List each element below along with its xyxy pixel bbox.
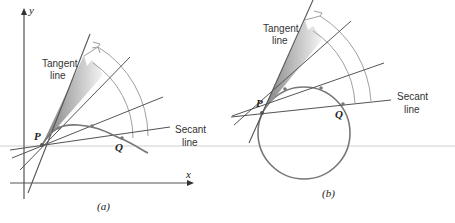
label-p: P <box>34 130 41 142</box>
tangent-secant-figure: y x Tangent line Secant line P Q (a) <box>0 0 455 223</box>
secant-label-line2: line <box>404 104 420 115</box>
x-axis-label: x <box>185 168 191 180</box>
point-mid-1 <box>57 126 61 130</box>
rotation-arc-outer <box>320 16 371 101</box>
tangent-label-line2: line <box>272 35 288 46</box>
tangent-label-line1: Tangent <box>42 58 78 69</box>
rotation-arc-outer <box>98 47 148 136</box>
tangent-label-line1: Tangent <box>263 23 299 34</box>
y-axis-arrow-icon <box>21 8 27 15</box>
secant-label-line1: Secant <box>175 124 206 135</box>
caption-b: (b) <box>322 187 335 200</box>
panel-b: Tangent line Secant line P Q (b) <box>231 0 428 200</box>
tangent-label-line2: line <box>50 70 66 81</box>
secant-label-line2: line <box>182 137 198 148</box>
secant-label-line1: Secant <box>397 91 428 102</box>
label-q: Q <box>115 141 123 153</box>
tangent-line <box>249 0 313 143</box>
y-axis-label: y <box>28 4 34 16</box>
point-p <box>40 143 44 147</box>
panel-a: y x Tangent line Secant line P Q (a) <box>10 4 206 213</box>
point-mid-1 <box>283 87 287 91</box>
label-p: P <box>256 97 263 109</box>
label-q: Q <box>335 108 343 120</box>
point-mid-2 <box>90 124 94 128</box>
caption-a: (a) <box>97 200 110 213</box>
x-axis-arrow-icon <box>187 180 194 186</box>
point-q <box>341 102 345 106</box>
approach-line-1 <box>232 63 384 116</box>
point-mid-2 <box>319 86 323 90</box>
point-p <box>260 111 264 115</box>
point-q <box>120 136 124 140</box>
